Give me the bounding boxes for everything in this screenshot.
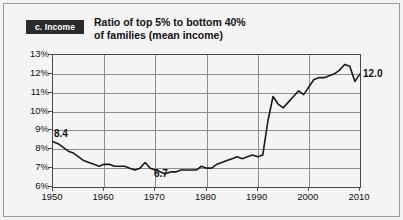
annotation-end-value: 12.0	[363, 68, 382, 79]
chart-title: Ratio of top 5% to bottom 40% of familie…	[94, 16, 354, 41]
x-axis-tick-label: 2000	[288, 191, 328, 202]
y-axis-tick-label: 13%	[19, 49, 49, 59]
x-axis-tick-label: 1950	[32, 191, 72, 202]
y-axis-tick-label: 8%	[19, 143, 49, 153]
annotation-start-value: 8.4	[54, 128, 68, 139]
series-line-chart	[53, 55, 360, 187]
x-axis-tick-label: 1960	[83, 191, 123, 202]
chart-title-line-1: Ratio of top 5% to bottom 40%	[94, 16, 354, 29]
x-axis-tick-label: 1980	[186, 191, 226, 202]
y-axis-tick-label: 6%	[19, 181, 49, 191]
figure-panel: c. Income Ratio of top 5% to bottom 40% …	[0, 0, 403, 220]
y-axis-tick-label: 9%	[19, 124, 49, 134]
chart-title-line-2: of families (mean income)	[94, 29, 354, 42]
x-axis-tick-label: 1970	[134, 191, 174, 202]
plot-area	[52, 54, 361, 188]
y-axis-tick-labels: 13%12%11%10%9%8%7%6%	[18, 54, 49, 186]
y-axis-tick-label: 11%	[19, 87, 49, 97]
figure-inner-frame: c. Income Ratio of top 5% to bottom 40% …	[3, 3, 400, 217]
y-axis-tick-label: 12%	[19, 68, 49, 78]
annotation-minimum-value: 6.7	[154, 168, 168, 179]
x-axis-tick-labels: 1950196019701980199020002010	[52, 191, 359, 205]
x-axis-tick-label: 1990	[237, 191, 277, 202]
series-polyline	[53, 64, 360, 173]
y-axis-tick-label: 10%	[19, 106, 49, 116]
section-badge: c. Income	[26, 20, 84, 34]
y-axis-tick-label: 7%	[19, 162, 49, 172]
x-axis-tick-label: 2010	[339, 191, 379, 202]
